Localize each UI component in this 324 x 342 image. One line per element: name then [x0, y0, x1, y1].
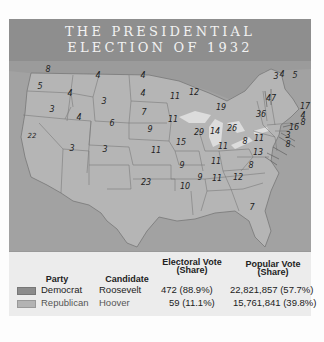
state-label-mt: 4: [95, 71, 100, 80]
state-label-tx: 23: [141, 178, 151, 187]
title-line-2: ELECTION OF 1932: [9, 40, 311, 56]
state-label-nh: 4: [279, 70, 284, 79]
candidate-roosevelt: Roosevelt: [99, 284, 141, 295]
state-label-fl: 7: [249, 203, 254, 212]
state-label-mi: 19: [216, 103, 226, 112]
state-label-ky: 11: [218, 142, 228, 151]
state-label-ks: 9: [147, 125, 152, 134]
us-electoral-map: 8 5 22 4 3 4 3 4 3 6 3 4 4 7 9 11 23 11 …: [9, 61, 311, 251]
state-label-ok: 11: [151, 146, 161, 155]
state-label-tn: 11: [211, 157, 221, 166]
popular-republican: 15,761,841 (39.8%): [233, 297, 316, 308]
state-label-in: 14: [210, 127, 220, 136]
state-label-nc: 13: [253, 148, 263, 157]
legend-header-candidate: Candidate: [99, 275, 155, 283]
state-label-ma: 17: [300, 102, 310, 111]
state-label-ar: 9: [179, 161, 184, 170]
state-label-wi: 12: [189, 88, 199, 97]
state-label-oh: 26: [227, 124, 237, 133]
state-label-nd: 4: [140, 71, 145, 80]
state-label-co: 6: [109, 119, 114, 128]
state-label-al: 11: [212, 174, 222, 183]
legend-header-party: Party: [39, 275, 75, 283]
legend-header-popular: Popular Vote (Share): [237, 260, 309, 276]
state-label-ms: 9: [197, 173, 202, 182]
state-label-wv: 8: [242, 137, 247, 146]
state-label-ny: 47: [266, 94, 276, 103]
popular-democrat: 22,821,857 (57.7%): [230, 284, 313, 295]
party-democrat: Democrat: [41, 284, 82, 295]
title-line-1: THE PRESIDENTIAL: [9, 24, 311, 40]
legend-header-electoral: Electoral Vote (Share): [157, 258, 227, 274]
state-label-wy: 3: [101, 97, 106, 106]
legend-header-electoral-line2: (Share): [157, 266, 227, 274]
election-results-legend: Party Candidate Electoral Vote (Share) P…: [9, 251, 311, 316]
state-label-ct: 8: [300, 118, 305, 127]
state-label-sc: 8: [248, 161, 253, 170]
state-label-il: 29: [194, 128, 204, 137]
state-label-la: 10: [180, 182, 190, 191]
state-label-mn: 11: [170, 92, 180, 101]
state-label-md: 8: [285, 140, 290, 149]
state-label-pa: 36: [256, 110, 266, 119]
candidate-hoover: Hoover: [99, 297, 130, 308]
state-label-nv: 3: [49, 105, 54, 114]
republican-color-swatch: [17, 300, 36, 308]
state-label-id: 4: [67, 89, 72, 98]
map-title: THE PRESIDENTIAL ELECTION OF 1932: [9, 19, 311, 61]
state-label-or: 5: [37, 82, 42, 91]
state-label-sd: 4: [140, 89, 145, 98]
electoral-republican: 59 (11.1%): [169, 297, 215, 308]
democrat-color-swatch: [17, 287, 36, 295]
us-map-graphic: [9, 61, 311, 251]
electoral-democrat: 472 (88.9%): [161, 284, 213, 295]
state-label-de: 3: [285, 131, 290, 140]
state-label-ia: 11: [168, 115, 178, 124]
state-label-ut: 4: [76, 113, 81, 122]
state-label-vt: 3: [273, 72, 278, 81]
state-label-mo: 15: [176, 138, 186, 147]
state-label-ga: 12: [233, 173, 243, 182]
state-label-ca: 22: [28, 132, 37, 140]
legend-header-popular-line2: (Share): [237, 268, 309, 276]
state-label-ne: 7: [141, 108, 146, 117]
state-label-va: 11: [254, 134, 264, 143]
party-republican: Republican: [41, 297, 89, 308]
state-label-me: 5: [292, 71, 297, 80]
state-label-nm: 3: [102, 145, 107, 154]
state-label-az: 3: [69, 144, 74, 153]
state-label-wa: 8: [45, 65, 50, 74]
